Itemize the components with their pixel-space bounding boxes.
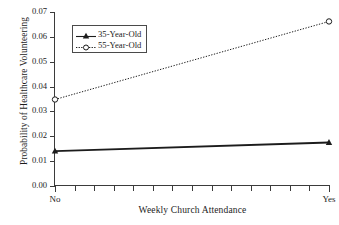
y-axis-tick-label: 0.04	[32, 81, 47, 91]
legend-key-solid-triangle-icon	[76, 28, 96, 39]
x-axis-tick	[329, 186, 330, 192]
x-axis-tick	[172, 186, 173, 191]
data-point-circle	[326, 19, 331, 24]
x-axis-tick	[153, 186, 154, 191]
x-axis-tick-label: No	[50, 194, 61, 204]
x-axis-tick	[94, 186, 95, 191]
x-axis-tick	[192, 186, 193, 191]
y-axis-tick-label: 0.07	[32, 6, 47, 16]
x-axis-tick	[290, 186, 291, 191]
legend-key-dotted-circle-icon	[76, 39, 96, 50]
y-axis-tick-label: 0.03	[32, 105, 47, 115]
x-axis-tick-label: Yes	[322, 194, 335, 204]
chart-figure: Probability of Healthcare Volunteering W…	[0, 0, 339, 225]
y-axis-tick-label: 0.00	[32, 180, 47, 190]
x-axis-tick	[270, 186, 271, 191]
legend-label-35-year-old: 35-Year-Old	[98, 29, 141, 39]
y-axis-tick-label: 0.01	[32, 155, 47, 165]
x-axis-tick	[114, 186, 115, 191]
x-axis-tick	[55, 186, 56, 192]
series-line-35-year-old	[55, 143, 329, 152]
x-axis-tick	[212, 186, 213, 191]
x-axis-tick	[75, 186, 76, 191]
y-axis-tick-label: 0.06	[32, 31, 47, 41]
legend-label-55-year-old: 55-Year-Old	[98, 40, 141, 50]
x-axis-tick	[133, 186, 134, 191]
x-axis-tick	[231, 186, 232, 191]
legend-entry-35-year-old: 35-Year-Old	[76, 28, 141, 39]
legend-entry-55-year-old: 55-Year-Old	[76, 39, 141, 50]
y-axis-title: Probability of Healthcare Volunteering	[19, 1, 29, 181]
data-point-circle	[52, 97, 57, 102]
x-axis-tick	[309, 186, 310, 191]
x-axis-tick	[251, 186, 252, 191]
chart-legend: 35-Year-Old 55-Year-Old	[72, 25, 147, 53]
x-axis-title: Weekly Church Attendance	[55, 205, 330, 215]
y-axis-tick-label: 0.02	[32, 130, 47, 140]
y-axis-tick-label: 0.05	[32, 56, 47, 66]
